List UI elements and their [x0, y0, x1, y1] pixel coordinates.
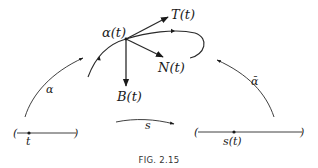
- curve-direction-arrow-icon: [171, 29, 175, 33]
- s-interval: ( ): [194, 126, 304, 139]
- frenet-frame: [125, 17, 168, 86]
- label-alpha-t: α(t): [102, 25, 126, 40]
- label-s-of-t: s(t): [223, 135, 242, 148]
- label-alpha-map: α: [46, 83, 54, 96]
- alpha-map-arrow: [25, 58, 83, 117]
- point-s-t: [232, 130, 235, 133]
- normal-vector: [126, 39, 163, 57]
- label-binormal: B(t): [116, 89, 142, 104]
- label-alpha-bar-map: ᾱ: [251, 75, 259, 88]
- label-tangent: T(t): [171, 7, 195, 22]
- label-t: t: [26, 135, 31, 148]
- t-interval: ( ): [13, 127, 78, 140]
- label-normal: N(t): [157, 60, 185, 75]
- figure-caption: FIG. 2.15: [138, 155, 179, 165]
- alpha-bar-map-arrow: [217, 60, 274, 117]
- tangent-vector: [126, 17, 168, 39]
- label-s-map: s: [145, 119, 151, 132]
- figure-canvas: α(t) T(t) N(t) B(t) α ᾱ s ( ) t ( ) s(t)…: [0, 0, 318, 168]
